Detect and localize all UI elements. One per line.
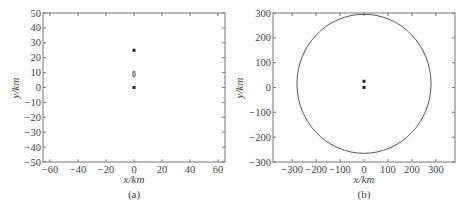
y-tick-label: −40	[25, 142, 41, 153]
panel-b-caption: (b)	[358, 188, 371, 201]
y-tick-label: 20	[31, 52, 42, 63]
x-tick-label: 20	[157, 164, 168, 175]
x-tick-label: −100	[329, 164, 351, 175]
data-point	[133, 49, 136, 52]
y-tick-label: 0	[36, 82, 41, 93]
y-tick-label: 200	[255, 32, 271, 43]
x-tick-label: −200	[305, 164, 327, 175]
y-tick-label: −20	[25, 112, 41, 123]
y-tick-label: 100	[255, 57, 271, 68]
panel-b: −300−200−1000100200300−300−200−100010020…	[249, 8, 455, 176]
y-tick-label: −10	[25, 97, 41, 108]
x-tick-label: 60	[213, 164, 224, 175]
y-tick-label: −300	[249, 157, 271, 168]
x-tick-label: 200	[404, 164, 420, 175]
y-tick-label: −100	[249, 107, 271, 118]
x-tick-label: 40	[185, 164, 196, 175]
y-tick-label: 30	[31, 37, 42, 48]
y-tick-label: 40	[31, 22, 42, 33]
y-tick-label: 0	[266, 82, 271, 93]
panel-a-caption: (a)	[128, 188, 141, 201]
x-tick-label: −40	[70, 164, 86, 175]
data-point	[363, 86, 366, 89]
panel-b-ylabel: y/km	[233, 78, 245, 100]
y-tick-label: 300	[255, 8, 271, 19]
panel-a-ylabel: y/km	[9, 78, 21, 100]
x-tick-label: −300	[281, 164, 303, 175]
y-tick-label: −200	[249, 132, 271, 143]
panel-b-xlabel: x/km	[353, 173, 375, 185]
panel-a-xlabel: x/km	[123, 173, 145, 185]
coverage-circle	[297, 14, 431, 153]
data-point	[133, 86, 136, 89]
x-tick-label: 100	[380, 164, 396, 175]
y-tick-label: −30	[25, 127, 41, 138]
y-tick-label: 10	[31, 67, 42, 78]
small-ellipse	[133, 71, 135, 78]
panel-a: −60−40−200204060−50−40−30−20−10010203040…	[25, 8, 225, 176]
y-tick-label: −50	[25, 157, 41, 168]
x-tick-label: −60	[42, 164, 58, 175]
y-tick-label: 50	[31, 8, 42, 19]
x-tick-label: −20	[98, 164, 114, 175]
x-tick-label: 300	[428, 164, 444, 175]
data-point	[363, 80, 366, 83]
figure: −60−40−200204060−50−40−30−20−10010203040…	[0, 0, 462, 208]
